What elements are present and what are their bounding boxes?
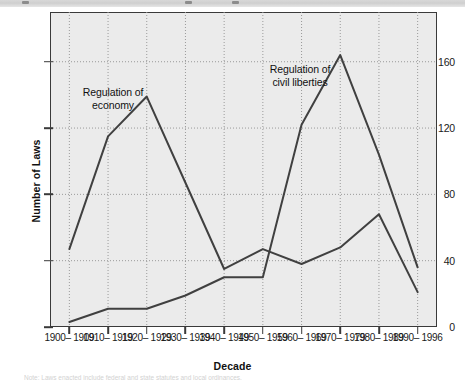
x-axis-title: Decade [0, 360, 465, 372]
line-chart-figure: Number of Laws 04080120160 1900– 1909191… [0, 0, 465, 385]
y-tick-label: 40 [444, 255, 455, 267]
y-tick-mark [44, 127, 53, 129]
y-tick-mark [44, 194, 53, 196]
figure-footnote: Note: Laws enacted include federal and s… [24, 374, 444, 381]
y-tick-label: 0 [449, 321, 455, 333]
chart-canvas [50, 12, 437, 327]
y-tick-label: 160 [438, 56, 455, 68]
y-tick-label: 80 [444, 188, 455, 200]
y-tick-mark [44, 61, 53, 63]
y-tick-mark [44, 260, 53, 262]
plot-area [50, 12, 437, 327]
y-axis-title: Number of Laws [30, 121, 42, 241]
y-tick-mark [44, 326, 53, 328]
x-tick-labels: 1900– 19091910– 19191920– 19291930– 1939… [50, 330, 437, 360]
series-annotation-label: Regulation of economy [83, 86, 144, 111]
x-tick-label: 1990– 1996 [393, 332, 443, 344]
y-tick-label: 120 [438, 122, 455, 134]
y-axis: Number of Laws [0, 12, 48, 327]
series-annotation-label: Regulation of civil liberties [270, 63, 331, 88]
gridlines-group [50, 12, 437, 327]
